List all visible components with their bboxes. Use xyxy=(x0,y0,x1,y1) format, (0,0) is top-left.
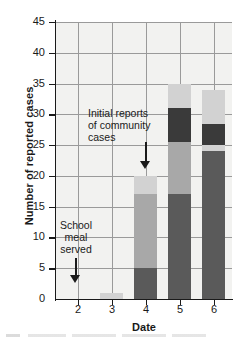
annotation-initial-arrow-icon xyxy=(140,142,151,170)
annotation-initial-reports: Initial reports of community cases xyxy=(88,107,178,143)
y-axis-title: Number of reported cases xyxy=(23,66,35,246)
annotation-school-line-1: School xyxy=(48,219,104,231)
bar-segment-dark xyxy=(202,151,225,299)
y-tick-35 xyxy=(49,84,56,85)
bar-date-4 xyxy=(134,176,157,299)
caption-cutoff-strip xyxy=(6,334,206,337)
y-tick-label-0: 0 xyxy=(17,292,45,304)
annotation-initial-line-1: Initial reports xyxy=(88,107,178,119)
y-tick-20 xyxy=(49,176,56,177)
y-axis-line xyxy=(55,20,56,301)
x-tick-label-4: 4 xyxy=(134,303,158,315)
annotation-school-meal: School meal served xyxy=(48,219,104,255)
y-tick-label-5: 5 xyxy=(17,261,45,273)
gridline-y-45 xyxy=(56,22,232,23)
x-tick-label-6: 6 xyxy=(202,303,226,315)
bar-segment-dark xyxy=(168,194,191,299)
bar-segment-near-black xyxy=(202,124,225,146)
gridline-y-40 xyxy=(56,53,232,54)
bar-segment-dark xyxy=(134,268,157,299)
figure-bar-chart: 45 40 35 30 25 20 15 10 5 0 2 3 4 5 6 Nu… xyxy=(0,0,249,339)
annotation-school-line-2: meal xyxy=(48,231,104,243)
bar-segment-light-top xyxy=(202,90,225,124)
y-tick-label-40: 40 xyxy=(17,46,45,58)
y-tick-45 xyxy=(49,22,56,23)
y-tick-30 xyxy=(49,114,56,115)
annotation-initial-line-2: of community xyxy=(88,119,178,131)
y-tick-5 xyxy=(49,268,56,269)
x-tick-label-2: 2 xyxy=(66,303,90,315)
x-tick-label-3: 3 xyxy=(100,303,124,315)
gridline-x-3 xyxy=(112,22,113,299)
bar-segment-medium xyxy=(134,194,157,268)
annotation-school-arrow-icon xyxy=(70,258,81,284)
x-axis-line xyxy=(55,299,233,300)
bar-segment-medium xyxy=(168,142,191,194)
x-axis-title: Date xyxy=(56,321,232,333)
gridline-y-35 xyxy=(56,84,232,85)
y-tick-25 xyxy=(49,145,56,146)
y-tick-15 xyxy=(49,207,56,208)
y-tick-label-45: 45 xyxy=(17,15,45,27)
annotation-school-line-3: served xyxy=(48,243,104,255)
bar-date-6 xyxy=(202,90,225,299)
annotation-initial-line-3: cases xyxy=(88,131,178,143)
y-tick-40 xyxy=(49,53,56,54)
bar-segment-light-top xyxy=(134,176,157,195)
bar-segment-light-top xyxy=(168,84,191,109)
x-tick-label-5: 5 xyxy=(168,303,192,315)
